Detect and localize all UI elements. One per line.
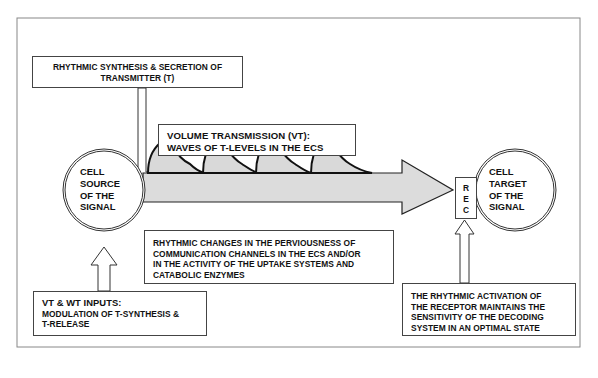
synthesis-line: TRANSMITTER (T) [33,73,242,84]
receptor-letter: C [456,205,476,216]
source-cell-line: SIGNAL [80,201,120,213]
source-cell-line: CELL [80,166,120,178]
inputs-heading: VT & WT INPUTS: [42,297,206,309]
receptor-note-line: SYSTEM IN AN OPTIMAL STATE [411,323,575,334]
receptor-letter: R [456,183,476,194]
synthesis-line: RHYTHMIC SYNTHESIS & SECRETION OF [33,62,242,73]
vt-line: VOLUME TRANSMISSION (VT): [167,130,355,142]
receptor-letter: E [456,194,476,205]
target-cell-line: TARGET [489,178,527,190]
receptor-note-line: THE RHYTHMIC ACTIVATION OF [411,291,575,302]
inputs-box: VT & WT INPUTS: MODULATION OF T-SYNTHESI… [33,291,207,336]
perviousness-line: RHYTHMIC CHANGES IN THE PERVIOUSNESS OF [153,238,393,249]
inputs-line: T-RELEASE [42,319,206,330]
receptor-note-box: THE RHYTHMIC ACTIVATION OF THE RECEPTOR … [402,283,576,336]
perviousness-line: CATABOLIC ENZYMES [153,270,393,281]
inputs-line: MODULATION OF T-SYNTHESIS & [42,309,206,320]
perviousness-box: RHYTHMIC CHANGES IN THE PERVIOUSNESS OF … [144,230,394,284]
volume-transmission-box: VOLUME TRANSMISSION (VT): WAVES OF T-LEV… [158,124,356,156]
target-cell-line: OF THE [489,190,527,202]
source-cell-line: OF THE [80,190,120,202]
receptor-box: R E C [455,177,477,219]
target-cell-line: CELL [489,166,527,178]
receptor-note-line: THE RECEPTOR MAINTAINS THE [411,302,575,313]
perviousness-line: COMMUNICATION CHANNELS IN THE ECS AND/OR [153,249,393,260]
source-cell-line: SOURCE [80,178,120,190]
perviousness-line: IN THE ACTIVITY OF THE UPTAKE SYSTEMS AN… [153,259,393,270]
source-cell-label: CELL SOURCE OF THE SIGNAL [80,166,120,213]
target-cell-line: SIGNAL [489,201,527,213]
target-cell-label: CELL TARGET OF THE SIGNAL [489,166,527,213]
synthesis-box: RHYTHMIC SYNTHESIS & SECRETION OF TRANSM… [32,56,243,88]
receptor-note-line: SENSITIVITY OF THE DECODING [411,312,575,323]
vt-line: WAVES OF T-LEVELS IN THE ECS [167,142,355,154]
